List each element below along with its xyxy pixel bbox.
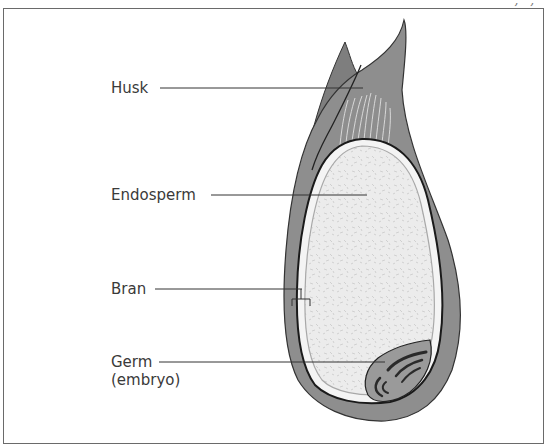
label-endosperm: Endosperm (111, 186, 196, 204)
label-bran: Bran (111, 280, 146, 298)
label-germ: Germ (111, 353, 152, 371)
label-husk: Husk (111, 79, 148, 97)
grain-diagram (0, 0, 548, 448)
label-germ-embryo: (embryo) (111, 371, 180, 389)
